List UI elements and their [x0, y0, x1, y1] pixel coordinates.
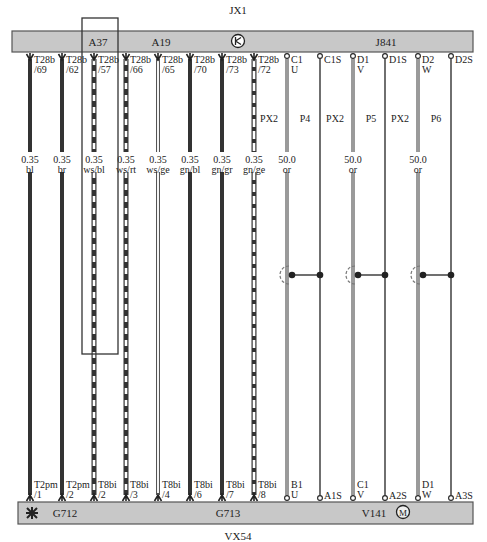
motor-icon: M: [397, 506, 410, 519]
top-pin-label: D2S: [455, 54, 473, 65]
pin-arrow-icon: [155, 493, 162, 501]
wire-color: bl: [26, 164, 34, 175]
wire-t28b57: T28b/57T8bi/20.35ws/bl: [83, 53, 119, 501]
pin-circle-icon: [449, 54, 454, 59]
top-pin-label: /69: [34, 64, 47, 75]
bottom-pin-label: /8: [258, 489, 266, 500]
top-pin-label: C1S: [324, 54, 341, 65]
bottom-pin-label: /1: [34, 489, 42, 500]
top-bar-label: A19: [152, 36, 171, 48]
wire-color: or: [283, 164, 292, 175]
bottom-pin-label: /4: [162, 489, 170, 500]
top-pin-label: W: [422, 64, 432, 75]
top-pin-label: /65: [162, 64, 175, 75]
wire-color: gn/gr: [211, 164, 233, 175]
wiring-diagram: JX1 A37A19J841 T28b/69T2pm/10.35blT28b/6…: [0, 0, 487, 542]
pin-circle-icon: [351, 54, 356, 59]
pin-circle-icon: [383, 496, 388, 501]
wire-color: gn/ge: [243, 164, 266, 175]
bottom-pin-label: /7: [226, 489, 234, 500]
pin-arrow-icon: [187, 493, 194, 501]
wire-color: or: [414, 164, 423, 175]
shield-label: PX2: [260, 113, 278, 124]
top-pin-label: U: [291, 64, 299, 75]
sensor-icon: [26, 507, 38, 519]
bottom-pin-label: U: [291, 489, 299, 500]
wire-d1v: D1VC1V50.0orPX2P5: [326, 54, 376, 501]
wire-bundle: T28b/69T2pm/10.35blT28b/62T2pm/20.35brT2…: [21, 53, 473, 501]
pin-arrow-icon: [155, 53, 162, 61]
shield-label: PX2: [326, 113, 344, 124]
pin-arrow-icon: [27, 53, 34, 61]
bottom-bar-label: G713: [216, 507, 241, 519]
top-pin-label: /62: [66, 64, 79, 75]
top-pin-label: /72: [258, 64, 271, 75]
wire-color: ws/ge: [146, 164, 170, 175]
bottom-pin-label: V: [357, 489, 365, 500]
wire-t28b66: T28b/66T8bi/30.35ws/rt: [116, 53, 151, 501]
top-bar-label: A37: [89, 36, 108, 48]
top-pin-label: /70: [194, 64, 207, 75]
wire-d2w: D2WD1W50.0orPX2P6: [391, 54, 441, 501]
pin-circle-icon: [351, 496, 356, 501]
pin-circle-icon: [449, 496, 454, 501]
bottom-pin-label: /2: [98, 489, 106, 500]
wire-color: ws/rt: [116, 164, 136, 175]
wire-color: ws/bl: [83, 164, 105, 175]
wire-t28b69: T28b/69T2pm/10.35bl: [21, 53, 58, 501]
pin-circle-icon: [383, 54, 388, 59]
bottom-pin-label: A2S: [389, 490, 407, 501]
wire-t28b65: T28b/65T8bi/40.35ws/ge: [146, 53, 183, 501]
ground-point-icon: [232, 35, 245, 48]
wire-color: br: [58, 164, 67, 175]
pin-arrow-icon: [59, 493, 66, 501]
shield-label: PX2: [391, 113, 409, 124]
wire-c1u: C1UB1U50.0orPX2P4: [260, 54, 310, 501]
wire-t28b73: T28b/73T8bi/70.35gn/gr: [211, 53, 247, 501]
pin-arrow-icon: [219, 53, 226, 61]
pin-arrow-icon: [219, 493, 226, 501]
wire-color: gn/bl: [180, 164, 201, 175]
wire-t28b70: T28b/70T8bi/60.35gn/bl: [180, 53, 215, 501]
pin-circle-icon: [318, 496, 323, 501]
pin-circle-icon: [285, 54, 290, 59]
top-pin-label: /73: [226, 64, 239, 75]
pin-group-label: P4: [300, 113, 311, 124]
component-title-vx54: VX54: [225, 530, 252, 542]
top-pin-label: /57: [98, 64, 111, 75]
wire-t28b62: T28b/62T2pm/20.35br: [53, 53, 90, 501]
pin-circle-icon: [285, 496, 290, 501]
connector-title-jx1: JX1: [229, 4, 247, 16]
bottom-pin-label: A3S: [455, 490, 473, 501]
pin-group-label: P5: [366, 113, 377, 124]
bottom-pin-label: A1S: [324, 490, 342, 501]
pin-circle-icon: [416, 54, 421, 59]
pin-circle-icon: [318, 54, 323, 59]
top-pin-label: V: [357, 64, 365, 75]
pin-group-label: P6: [431, 113, 442, 124]
bottom-pin-label: /3: [130, 489, 138, 500]
bottom-bar-label: V141: [362, 507, 386, 519]
bottom-pin-label: /2: [66, 489, 74, 500]
top-bar-label: J841: [376, 36, 397, 48]
svg-text:M: M: [399, 508, 407, 518]
pin-circle-icon: [416, 496, 421, 501]
bottom-pin-label: /6: [194, 489, 202, 500]
bottom-pin-label: W: [422, 489, 432, 500]
top-pin-label: /66: [130, 64, 143, 75]
wire-color: or: [349, 164, 358, 175]
top-pin-label: D1S: [389, 54, 407, 65]
bottom-bar-label: G712: [53, 507, 77, 519]
pin-arrow-icon: [27, 493, 34, 501]
pin-arrow-icon: [187, 53, 194, 61]
pin-arrow-icon: [59, 53, 66, 61]
